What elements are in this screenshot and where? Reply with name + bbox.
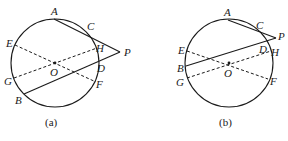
- label-b-D: D: [258, 43, 267, 55]
- label-b-P: P: [277, 30, 285, 42]
- label-a-F: F: [95, 78, 103, 90]
- center-point-b: [228, 62, 231, 65]
- label-a-A: A: [50, 5, 58, 17]
- label-b-F: F: [269, 75, 277, 87]
- label-a-P: P: [123, 46, 131, 58]
- caption-b: (b): [219, 116, 232, 129]
- label-b-O: O: [224, 67, 232, 79]
- caption-a: (a): [45, 116, 58, 129]
- secant-acp-b: [228, 20, 276, 38]
- diagram-canvas: A C P H D B E G F O (a) A C P D H B E G …: [0, 0, 288, 141]
- figure-a: A C P H D B E G F O (a): [4, 5, 131, 129]
- label-b-G: G: [176, 76, 184, 88]
- center-point-a: [54, 62, 57, 65]
- label-b-B: B: [177, 62, 184, 74]
- label-b-E: E: [177, 44, 185, 56]
- label-a-B: B: [15, 94, 22, 106]
- label-a-D: D: [96, 62, 105, 74]
- figure-b: A C P D H B E G F O (b): [176, 6, 285, 129]
- label-b-C: C: [256, 19, 264, 31]
- label-b-A: A: [223, 6, 231, 18]
- label-b-H: H: [270, 46, 280, 58]
- label-a-H: H: [95, 42, 105, 54]
- label-a-C: C: [87, 20, 95, 32]
- label-a-O: O: [50, 66, 58, 78]
- label-a-E: E: [5, 37, 13, 49]
- secant-bdp-a: [24, 52, 120, 94]
- label-a-G: G: [4, 75, 12, 87]
